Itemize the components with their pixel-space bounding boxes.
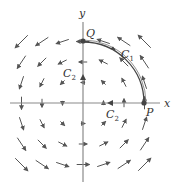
field-arrow xyxy=(17,138,25,151)
field-arrow xyxy=(60,121,64,125)
field-arrow xyxy=(58,142,66,146)
field-arrow xyxy=(140,56,148,69)
field-arrow xyxy=(138,158,151,171)
field-arrow xyxy=(99,60,107,64)
field-arrow xyxy=(36,160,49,168)
field-arrow xyxy=(118,160,131,168)
curve-c2-label-x: C2 xyxy=(106,108,119,123)
field-arrow xyxy=(118,37,131,45)
field-arrow xyxy=(97,162,110,166)
point-p xyxy=(141,100,146,105)
field-arrow xyxy=(56,162,69,166)
field-arrow xyxy=(142,117,146,130)
field-arrow xyxy=(58,60,66,64)
y-axis-label: y xyxy=(78,7,86,20)
field-arrow xyxy=(60,80,64,84)
field-arrow xyxy=(40,78,44,86)
field-arrow xyxy=(19,117,23,130)
field-arrow xyxy=(140,138,148,151)
field-arrow xyxy=(138,35,151,48)
field-arrow xyxy=(36,37,49,45)
field-arrow xyxy=(38,140,46,148)
field-arrow xyxy=(122,78,126,86)
field-arrow xyxy=(15,158,28,171)
field-arrow xyxy=(38,58,46,66)
x-axis-label: x xyxy=(164,97,171,110)
curve-c2-label-y: C2 xyxy=(63,67,76,82)
field-arrow xyxy=(120,140,128,148)
field-arrow xyxy=(122,119,126,127)
field-arrow xyxy=(101,80,105,84)
curve-c2-arrow-x xyxy=(107,100,113,106)
curve-c1-label: C1 xyxy=(121,48,134,63)
field-arrow xyxy=(56,39,69,43)
point-q-label: Q xyxy=(86,27,95,40)
field-arrow xyxy=(17,56,25,69)
point-p-label: P xyxy=(145,106,154,119)
field-arrow xyxy=(40,119,44,127)
field-arrow xyxy=(19,76,23,89)
field-arrow xyxy=(15,35,28,48)
vector-field-diagram: x y P Q C1 C2 C2 xyxy=(0,0,179,186)
point-q xyxy=(80,38,85,43)
field-arrow xyxy=(99,142,107,146)
curve-c1 xyxy=(83,42,144,103)
curve-c2-arrow-y xyxy=(80,74,86,80)
field-arrow xyxy=(101,121,105,125)
